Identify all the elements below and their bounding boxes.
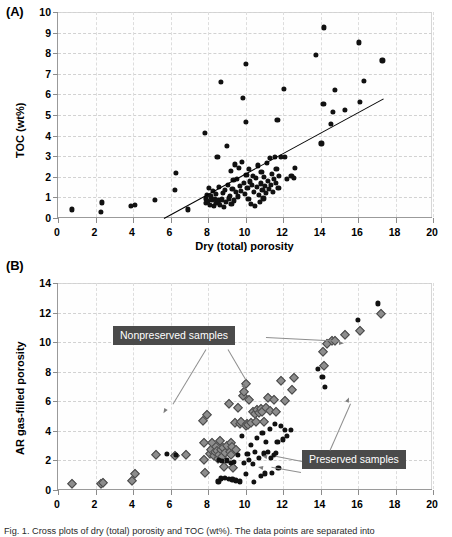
data-point-nonpreserved — [150, 449, 160, 459]
data-point-nonpreserved — [355, 325, 365, 335]
gridline-vertical — [171, 12, 172, 217]
data-point-preserved — [323, 385, 328, 390]
data-point-toc — [252, 203, 257, 208]
data-point-preserved — [245, 451, 250, 456]
data-point-toc — [253, 175, 258, 180]
panel-a-x-axis-title: Dry (total) porosity — [0, 240, 432, 252]
data-point-toc — [330, 109, 335, 114]
data-point-toc — [99, 200, 104, 205]
x-axis-tick-label: 18 — [389, 227, 401, 238]
data-point-nonpreserved — [276, 376, 286, 386]
data-point-toc — [322, 25, 327, 30]
data-point-toc — [152, 198, 157, 203]
data-point-nonpreserved — [340, 330, 350, 340]
data-point-toc — [173, 188, 178, 193]
data-point-toc — [239, 159, 244, 164]
y-axis-tick-label: 2 — [27, 172, 51, 183]
x-axis-tick — [246, 490, 247, 495]
y-axis-tick — [53, 197, 58, 198]
panel-a-label: (A) — [6, 4, 23, 19]
data-point-toc — [69, 207, 74, 212]
y-axis-tick-label: 1 — [27, 192, 51, 203]
data-point-toc — [215, 155, 220, 160]
figure-caption: Fig. 1. Cross plots of dry (total) poros… — [4, 526, 452, 536]
y-axis-tick — [53, 401, 58, 402]
x-axis-tick — [358, 490, 359, 495]
x-axis-tick-label: 16 — [351, 227, 363, 238]
data-point-preserved — [282, 428, 287, 433]
x-axis-tick — [208, 218, 209, 223]
data-point-toc — [321, 101, 326, 106]
x-axis-tick — [58, 218, 59, 223]
y-axis-tick-label: 10 — [27, 337, 51, 348]
x-axis-tick-label: 2 — [92, 227, 98, 238]
data-point-toc — [270, 190, 275, 195]
data-point-preserved — [272, 422, 277, 427]
y-axis-tick-label: 8 — [27, 48, 51, 59]
x-axis-tick — [133, 490, 134, 495]
data-point-toc — [185, 207, 190, 212]
y-axis-tick-label: 4 — [27, 130, 51, 141]
x-axis-tick-label: 0 — [54, 227, 60, 238]
x-axis-tick-label: 16 — [351, 499, 363, 510]
x-axis-tick-label: 14 — [314, 499, 326, 510]
x-axis-tick-label: 8 — [204, 499, 210, 510]
x-axis-tick — [321, 490, 322, 495]
x-axis-tick-label: 6 — [167, 499, 173, 510]
data-point-toc — [275, 117, 280, 122]
gridline-vertical — [283, 12, 284, 217]
x-axis-tick-label: 6 — [167, 227, 173, 238]
data-point-preserved — [235, 453, 240, 458]
y-axis-tick — [53, 156, 58, 157]
y-axis-tick-label: 5 — [27, 110, 51, 121]
panel-a-y-axis-title: TOC (wt%) — [14, 103, 26, 158]
data-point-preserved — [243, 471, 248, 476]
data-point-preserved — [254, 435, 259, 440]
data-point-toc — [98, 209, 103, 214]
leader-arrowhead — [339, 341, 344, 345]
data-point-preserved — [375, 301, 380, 306]
data-point-preserved — [273, 450, 278, 455]
data-point-toc — [361, 78, 366, 83]
data-point-preserved — [237, 479, 242, 484]
data-point-toc — [282, 154, 287, 159]
data-point-preserved — [320, 374, 325, 379]
data-point-preserved — [164, 452, 169, 457]
y-axis-tick — [53, 74, 58, 75]
data-point-preserved — [355, 317, 360, 322]
y-axis-tick — [53, 372, 58, 373]
x-axis-tick-label: 14 — [314, 227, 326, 238]
y-axis-tick — [53, 177, 58, 178]
data-point-preserved — [252, 449, 257, 454]
data-point-toc — [240, 96, 245, 101]
data-point-toc — [243, 62, 248, 67]
gridline-vertical — [321, 12, 322, 217]
y-axis-tick — [53, 136, 58, 137]
data-point-preserved — [239, 433, 244, 438]
data-point-nonpreserved — [280, 395, 290, 405]
x-axis-tick — [171, 218, 172, 223]
y-axis-tick — [53, 115, 58, 116]
x-axis-tick — [171, 490, 172, 495]
x-axis-tick — [321, 218, 322, 223]
x-axis-tick-label: 18 — [389, 499, 401, 510]
x-axis-tick — [96, 490, 97, 495]
x-axis-tick — [283, 218, 284, 223]
y-axis-tick — [53, 342, 58, 343]
x-axis-tick — [433, 218, 434, 223]
data-point-toc — [292, 175, 297, 180]
x-axis-tick — [208, 490, 209, 495]
panel-b-label: (B) — [6, 258, 23, 273]
callout-preserved-samples: Preserved samples — [302, 450, 406, 469]
data-point-toc — [274, 166, 279, 171]
x-axis-tick-label: 10 — [239, 227, 251, 238]
data-point-toc — [342, 107, 347, 112]
data-point-nonpreserved — [289, 372, 299, 382]
data-point-preserved — [250, 461, 255, 466]
data-point-preserved — [264, 439, 269, 444]
y-axis-tick-label: 12 — [27, 307, 51, 318]
y-axis-tick-label: 3 — [27, 151, 51, 162]
data-point-toc — [232, 198, 237, 203]
data-point-toc — [222, 187, 227, 192]
data-point-toc — [224, 143, 229, 148]
